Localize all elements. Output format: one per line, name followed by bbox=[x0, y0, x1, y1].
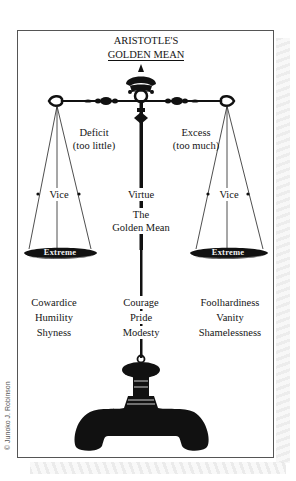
excess-heading: Excess (too much) bbox=[164, 126, 228, 152]
example-vanity: Vanity bbox=[190, 311, 270, 324]
example-humility: Humility bbox=[24, 311, 84, 324]
golden-mean-line-2: Golden Mean bbox=[112, 221, 169, 234]
deficit-sublabel: (too little) bbox=[64, 139, 124, 152]
left-extreme-label: Extreme bbox=[34, 247, 86, 257]
copyright-credit: © Junoko J. Robinson bbox=[4, 360, 14, 450]
diagram-title: ARISTOTLE'S GOLDEN MEAN bbox=[96, 34, 196, 62]
deficit-label: Deficit bbox=[64, 126, 124, 139]
golden-mean-label: The Golden Mean bbox=[111, 208, 171, 234]
example-pride: Pride bbox=[130, 311, 152, 324]
right-extreme-label: Extreme bbox=[202, 247, 254, 257]
scale-base bbox=[75, 356, 209, 451]
virtue-examples: Courage Pride Modesty bbox=[116, 296, 166, 339]
crest-ornament bbox=[126, 64, 156, 102]
example-shamelessness: Shamelessness bbox=[190, 326, 270, 339]
excess-examples: Foolhardiness Vanity Shamelessness bbox=[190, 296, 270, 339]
deficit-examples: Cowardice Humility Shyness bbox=[24, 296, 84, 339]
title-line-2: GOLDEN MEAN bbox=[108, 49, 185, 61]
left-vice-label: Vice bbox=[46, 188, 72, 201]
example-foolhardiness: Foolhardiness bbox=[190, 296, 270, 309]
deficit-heading: Deficit (too little) bbox=[64, 126, 124, 152]
golden-mean-line-1: The bbox=[133, 208, 149, 221]
title-line-1: ARISTOTLE'S bbox=[96, 34, 196, 48]
example-modesty: Modesty bbox=[123, 326, 160, 339]
excess-sublabel: (too much) bbox=[164, 139, 228, 152]
example-cowardice: Cowardice bbox=[24, 296, 84, 309]
virtue-label: Virtue bbox=[121, 188, 161, 201]
excess-label: Excess bbox=[164, 126, 228, 139]
example-shyness: Shyness bbox=[24, 326, 84, 339]
right-vice-label: Vice bbox=[216, 188, 242, 201]
example-courage: Courage bbox=[123, 296, 159, 309]
balance-scale-illustration bbox=[0, 0, 296, 481]
